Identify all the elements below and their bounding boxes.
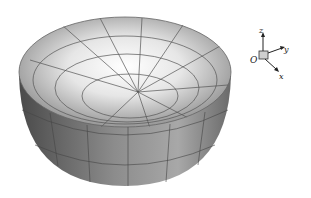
x-axis-arrow	[265, 59, 276, 69]
y-axis-label: y	[283, 45, 289, 54]
bowl-inner-surface	[19, 17, 231, 127]
origin-cube-icon	[259, 51, 268, 59]
hemisphere-diagram: z y x O	[0, 0, 311, 198]
bowl	[19, 17, 231, 186]
z-axis-label: z	[258, 26, 264, 35]
axes-glyph: z y x O	[250, 26, 289, 81]
x-axis-label: x	[279, 72, 284, 81]
origin-label: O	[250, 55, 258, 65]
y-axis-arrow	[268, 48, 282, 53]
